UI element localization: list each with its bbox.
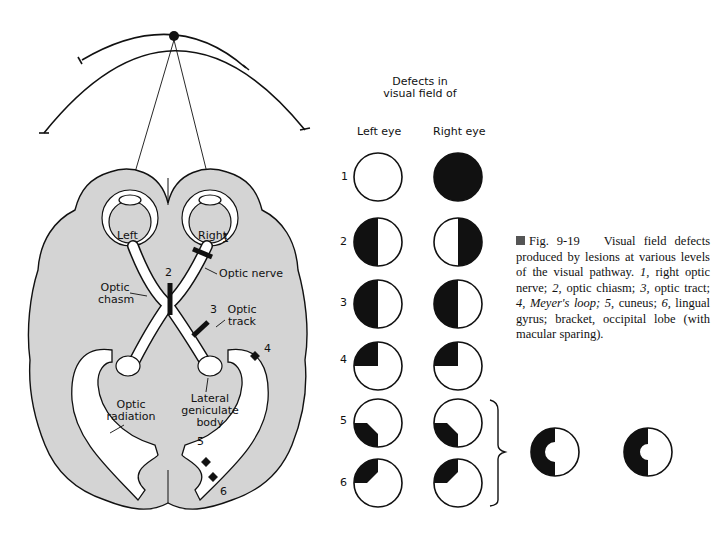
label-optic-tract-line2: track (225, 316, 259, 328)
lesion-number-1: 1 (222, 233, 229, 245)
caption-n3: 3, (640, 281, 649, 295)
field-1-right (434, 153, 482, 201)
field-1-left (354, 153, 402, 201)
visual-field-arcs (39, 34, 310, 133)
caption-t4: Meyer's loop; (530, 296, 600, 310)
column-right-eye: Right eye (433, 126, 486, 138)
field-bracket-left (531, 428, 579, 476)
defects-header-line2: visual field of (370, 88, 470, 100)
field-bracket-right (624, 428, 672, 476)
caption-t3: optic tract; (654, 281, 710, 295)
caption-n1: 1, (640, 265, 649, 279)
caption-n2: 2, (552, 281, 561, 295)
row-number-3: 3 (340, 297, 347, 309)
figure-caption: Fig. 9-19 Visual field defects produced … (516, 234, 710, 343)
defects-header: Defects in visual field of (370, 76, 470, 100)
row-number-5: 5 (340, 415, 347, 427)
caption-n6: 6, (661, 296, 670, 310)
caption-n4: 4, (516, 296, 525, 310)
lesion-number-2: 2 (165, 267, 172, 279)
lesion-number-3: 3 (210, 304, 217, 316)
lesion-number-6: 6 (220, 486, 227, 498)
left-lgb (116, 356, 140, 376)
caption-marker-icon (516, 236, 525, 245)
field-5-left (354, 399, 402, 447)
row-number-2: 2 (340, 236, 347, 248)
caption-n5: 5, (605, 296, 614, 310)
field-3-left (354, 280, 402, 328)
label-lgb-line3: body (178, 417, 242, 429)
field-4-left (354, 342, 402, 390)
row-number-1: 1 (341, 171, 348, 183)
brain-outline (28, 169, 307, 509)
fixation-point-icon (169, 31, 179, 41)
field-6-left (354, 459, 402, 507)
label-optic-nerve: Optic nerve (219, 268, 283, 280)
field-4-right (434, 342, 482, 390)
label-optic-chiasm-line2: chasm (98, 294, 132, 306)
label-optic-tract: Optic track (225, 304, 259, 328)
row-number-6: 6 (340, 477, 347, 489)
field-3-right (434, 280, 482, 328)
label-optic-chiasm: Optic chasm (98, 282, 132, 306)
field-2-right (434, 218, 482, 266)
label-left-eye: Left (117, 230, 138, 242)
bracket (490, 400, 505, 506)
caption-t2: optic chiasm; (566, 281, 635, 295)
column-left-eye: Left eye (357, 126, 401, 138)
field-5-right (434, 399, 482, 447)
lesion-number-4: 4 (264, 343, 271, 355)
caption-fig-number: Fig. 9-19 (529, 234, 580, 248)
caption-t5: cuneus; (619, 296, 657, 310)
right-lgb (198, 356, 222, 376)
field-2-left (354, 218, 402, 266)
label-lateral-geniculate-body: Lateral geniculate body (178, 393, 242, 429)
label-optic-radiation: Optic radiation (104, 399, 158, 423)
field-6-right (434, 459, 482, 507)
label-radiation-line2: radiation (104, 411, 158, 423)
lesion-number-5: 5 (197, 436, 204, 448)
row-number-4: 4 (340, 354, 347, 366)
